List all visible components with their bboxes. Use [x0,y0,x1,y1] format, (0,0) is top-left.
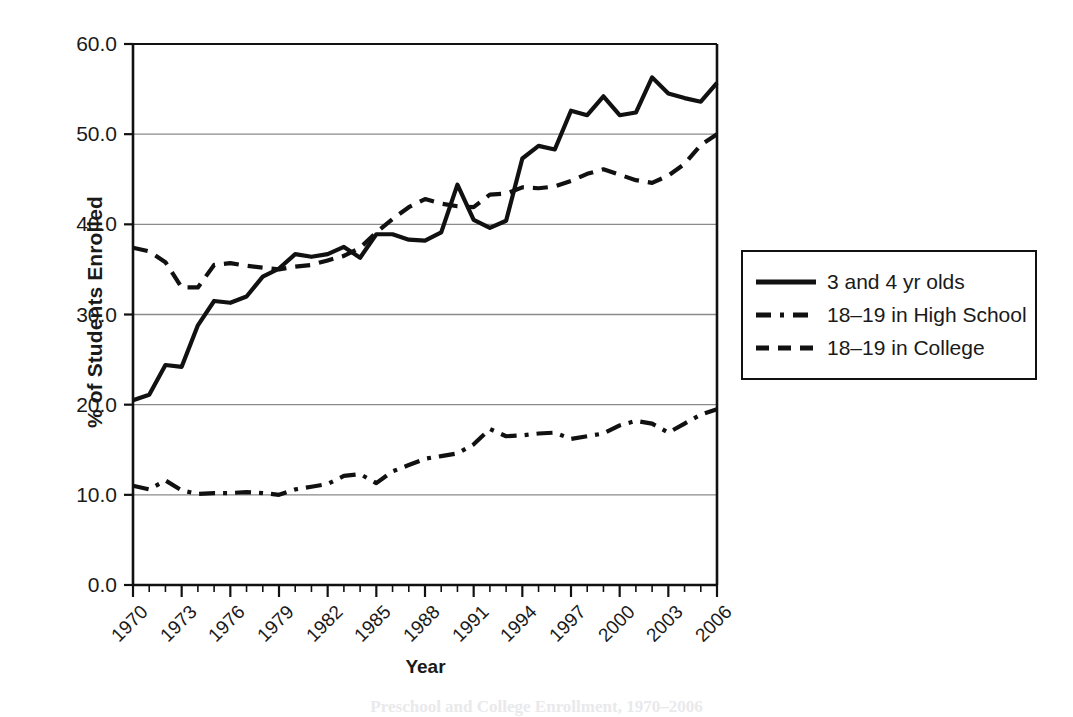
y-tick-label-20.0: 20.0 [35,394,117,415]
figure-caption: Preschool and College Enrollment, 1970–2… [0,697,1073,717]
y-tick-label-10.0: 10.0 [35,484,117,505]
legend-line-sample-dashed-icon [755,341,817,355]
legend-item-2[interactable]: 18–19 in College [755,331,1025,364]
legend-line-sample-dashdot-icon [755,308,817,322]
legend-label-1: 18–19 in High School [827,304,1027,325]
y-tick-label-50.0: 50.0 [35,123,117,144]
legend-label-2: 18–19 in College [827,337,985,358]
series-line-2 [133,134,717,287]
y-tick-label-40.0: 40.0 [35,213,117,234]
legend-item-0[interactable]: 3 and 4 yr olds [755,265,1025,298]
series-line-1 [133,409,717,495]
y-tick-label-60.0: 60.0 [35,33,117,54]
legend-label-0: 3 and 4 yr olds [827,271,965,292]
series-line-0 [133,77,717,400]
chart-legend[interactable]: 3 and 4 yr olds 18–19 in High School 18–… [741,250,1037,380]
y-tick-label-30.0: 30.0 [35,304,117,325]
legend-item-1[interactable]: 18–19 in High School [755,298,1025,331]
y-tick-label-0.0: 0.0 [35,574,117,595]
x-axis-title: Year [133,656,718,678]
legend-line-sample-solid-icon [755,275,817,289]
